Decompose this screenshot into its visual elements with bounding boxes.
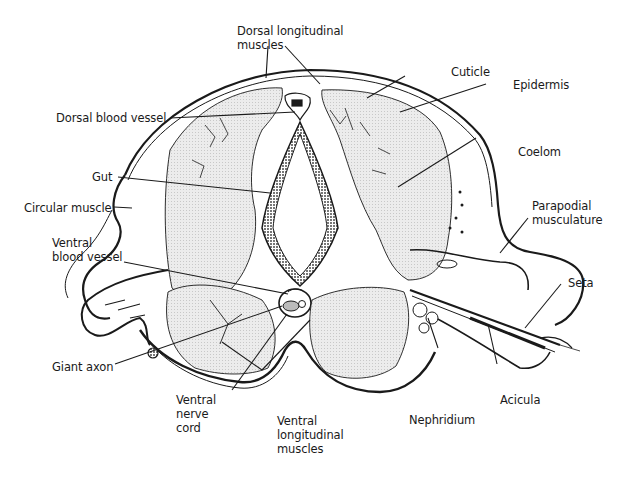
- label-giant-axon: Giant axon: [52, 360, 113, 374]
- diagram-canvas: Dorsal longitudinal muscles Dorsal blood…: [0, 0, 624, 478]
- dorsal-blood-vessel: [285, 93, 310, 120]
- label-ventral-nerve-cord: Ventral nerve cord: [176, 393, 216, 435]
- label-parapodial-musculature: Parapodial musculature: [532, 199, 603, 227]
- label-circular-muscle: Circular muscle: [24, 201, 112, 215]
- label-dorsal-longitudinal-muscles: Dorsal longitudinal muscles: [237, 24, 343, 52]
- label-gut: Gut: [92, 170, 112, 184]
- label-ventral-blood-vessel: Ventral blood vessel: [52, 236, 122, 264]
- gut: [262, 122, 338, 286]
- label-seta: Seta: [568, 276, 594, 290]
- nephridium: [413, 303, 438, 333]
- label-epidermis: Epidermis: [513, 78, 569, 92]
- label-dorsal-blood-vessel: Dorsal blood vessel: [56, 111, 166, 125]
- left-parapodium: [82, 270, 168, 358]
- label-acicula: Acicula: [500, 393, 540, 407]
- label-ventral-longitudinal-muscles: Ventral longitudinal muscles: [277, 414, 344, 456]
- label-coelom: Coelom: [518, 145, 561, 159]
- label-nephridium: Nephridium: [409, 413, 475, 427]
- label-cuticle: Cuticle: [451, 65, 490, 79]
